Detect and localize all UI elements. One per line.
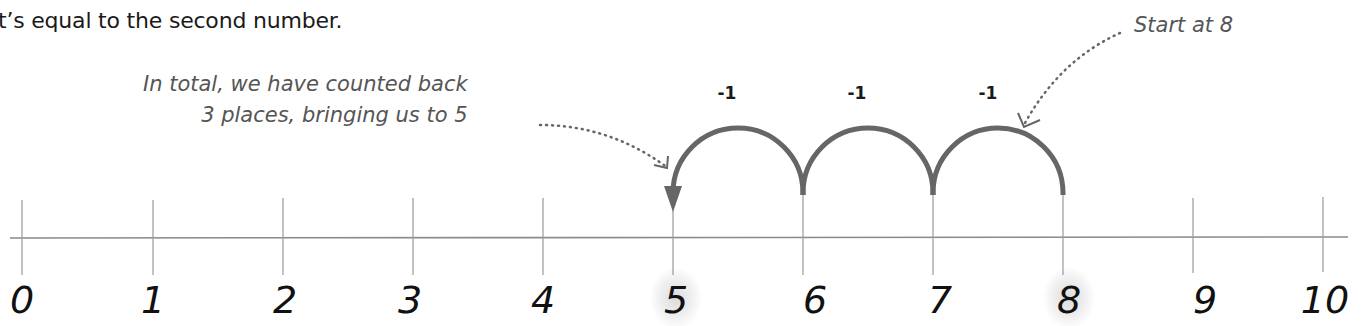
jump-arcs (673, 128, 1063, 195)
arrowhead-icon (664, 186, 682, 212)
tick-label-3: 3 (398, 277, 422, 323)
jump-label-2: -1 (848, 83, 867, 103)
tick-label-8-highlighted: 8 (1057, 277, 1081, 323)
jump-label-1: -1 (718, 83, 737, 103)
tick-label-9: 9 (1193, 277, 1217, 323)
jump-arc-7-to-6 (803, 128, 933, 195)
tick-label-4: 4 (531, 277, 555, 323)
pointer-to-8 (1025, 33, 1120, 123)
axis-line (10, 237, 1348, 238)
pointer-to-5 (540, 125, 668, 168)
jump-arc-8-to-7 (933, 128, 1063, 195)
tick-label-2: 2 (273, 277, 297, 323)
jump-label-3: -1 (979, 83, 998, 103)
pointer-to-8-arrowhead-icon (1018, 113, 1040, 127)
tick-label-0: 0 (10, 277, 34, 323)
tick-label-7: 7 (928, 277, 952, 323)
tick-label-5-highlighted: 5 (664, 277, 688, 323)
pointer-to-5-arrowhead-icon (654, 156, 668, 168)
tick-label-10: 10 (1301, 277, 1349, 323)
jump-arc-6-to-5 (673, 128, 803, 195)
tick-label-1: 1 (141, 277, 165, 323)
tick-label-6: 6 (803, 277, 827, 323)
